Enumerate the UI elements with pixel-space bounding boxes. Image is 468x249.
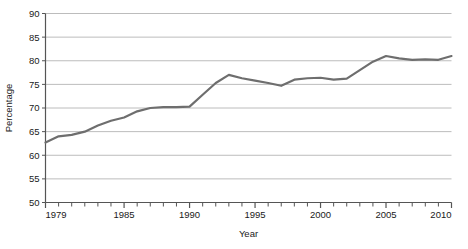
x-tick-label: 1985 [114, 209, 135, 220]
y-tick-label: 70 [29, 102, 40, 113]
x-tick-label: 2005 [375, 209, 396, 220]
gridlines [46, 14, 452, 179]
y-tick-label: 90 [29, 8, 40, 19]
chart-canvas: 5055606570758085901979198519901995200020… [0, 0, 468, 249]
x-axis-title: Year [239, 228, 258, 239]
x-tick-marks [46, 203, 452, 209]
y-tick-label: 65 [29, 126, 40, 137]
x-tick-label: 2010 [430, 209, 451, 220]
x-tick-label: 1979 [46, 209, 67, 220]
y-tick-label: 55 [29, 173, 40, 184]
y-tick-label: 80 [29, 55, 40, 66]
x-tick-label: 1990 [179, 209, 200, 220]
x-tick-label: 1995 [244, 209, 265, 220]
y-tick-label: 50 [29, 197, 40, 208]
y-axis-title: Percentage [3, 84, 14, 133]
y-tick-label: 60 [29, 150, 40, 161]
data-series-line [46, 56, 452, 142]
x-tick-label: 2000 [310, 209, 331, 220]
y-tick-label: 85 [29, 32, 40, 43]
line-chart: 5055606570758085901979198519901995200020… [0, 0, 468, 249]
y-tick-label: 75 [29, 79, 40, 90]
